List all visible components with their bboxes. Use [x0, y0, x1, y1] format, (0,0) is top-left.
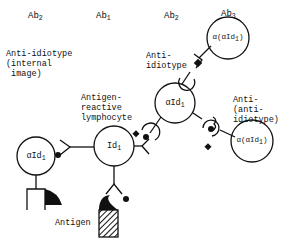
- header-ab2-left: Ab2: [28, 11, 43, 24]
- label-antigen: Antigen: [55, 218, 91, 228]
- label-anti-anti-idiotype: Anti- (anti- idiotype): [233, 95, 279, 125]
- label-anti-idiotype-internal: Anti-idiotype (internal image): [6, 49, 72, 79]
- text-left-alpha-id: αId1: [26, 151, 45, 162]
- text-center-id: Id1: [107, 141, 121, 152]
- header-ab1: Ab1: [96, 11, 111, 24]
- header-ab2-mid: Ab2: [164, 11, 179, 24]
- header-ab3: Ab3: [221, 9, 236, 22]
- text-mid-alpha-id: αId1: [165, 98, 184, 109]
- label-anti-idiotype: Anti- idiotype: [146, 51, 187, 71]
- label-antigen-reactive: Antigen- reactive lymphocyte: [81, 93, 132, 123]
- text-top-right: α(αId1): [213, 33, 244, 43]
- text-bottom-right: α(αId1): [237, 136, 268, 146]
- idiotype-network-diagram: Ab2 Ab1 Ab2 Ab3 Anti-idiotype (internal …: [0, 0, 287, 247]
- antigen-block: [99, 210, 118, 237]
